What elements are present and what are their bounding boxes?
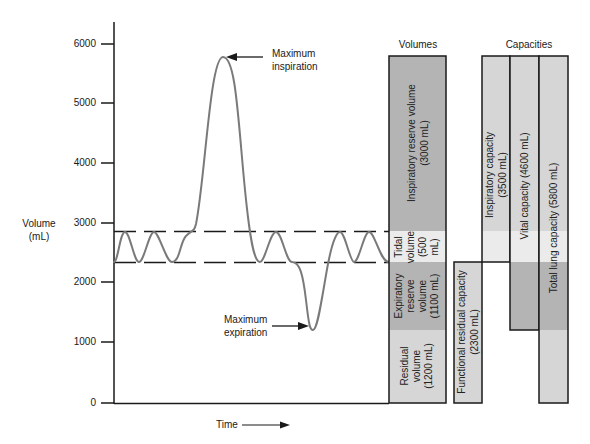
capacities-column: Functional residual capacity (2300 mL) I… <box>454 56 568 403</box>
y-axis: 6000 5000 4000 3000 2000 1000 0 Volume (… <box>22 22 114 408</box>
lung-volumes-diagram: 6000 5000 4000 3000 2000 1000 0 Volume (… <box>0 0 590 444</box>
max-inspiration-label-1: Maximum <box>272 48 315 59</box>
x-axis-label: Time <box>216 419 238 430</box>
y-tick-2000: 2000 <box>74 276 97 287</box>
frc-value: (2300 mL) <box>469 309 480 355</box>
tv-label-1: Tidal <box>393 236 404 257</box>
y-tick-4000: 4000 <box>74 157 97 168</box>
tlc-label: Total lung capacity (5800 mL) <box>548 163 559 294</box>
spirogram-trace <box>114 57 389 330</box>
y-axis-unit: (mL) <box>29 231 50 242</box>
volumes-header: Volumes <box>399 39 437 50</box>
irv-bar <box>389 56 446 231</box>
time-arrow-icon <box>280 422 290 429</box>
y-tick-1000: 1000 <box>74 336 97 347</box>
rv-label-1: Residual <box>399 347 410 386</box>
erv-label-3: volume <box>417 279 428 312</box>
max-expiration-label-2: expiration <box>224 327 267 338</box>
max-inspiration-label-2: inspiration <box>272 61 318 72</box>
ic-label: Inspiratory capacity <box>484 132 495 218</box>
max-expiration-label-1: Maximum <box>224 314 267 325</box>
tv-value-2: mL) <box>429 238 440 255</box>
max-inspiration-annotation: Maximum inspiration <box>226 48 318 72</box>
x-axis: Time <box>114 404 389 431</box>
rv-label-2: volume <box>411 349 422 382</box>
irv-label: Inspiratory reserve volume <box>406 84 417 202</box>
rv-value: (1200 mL) <box>423 343 434 389</box>
volumes-column: Inspiratory reserve volume (3000 mL) Tid… <box>389 56 446 403</box>
y-tick-0: 0 <box>90 397 96 408</box>
capacities-header: Capacities <box>506 39 553 50</box>
y-tick-5000: 5000 <box>74 97 97 108</box>
ic-value: (3500 mL) <box>497 152 508 198</box>
tlc-bar-rv <box>539 330 568 403</box>
erv-label-1: Expiratory <box>393 273 404 318</box>
tv-label-2: volume <box>405 230 416 263</box>
y-tick-3000: 3000 <box>74 217 97 228</box>
tv-value-1: (500 <box>417 237 428 257</box>
ic-bar-tidal <box>482 231 510 262</box>
arrow-right-icon <box>298 322 309 330</box>
y-axis-label: Volume <box>22 218 56 229</box>
y-tick-6000: 6000 <box>74 38 97 49</box>
erv-label-2: reserve <box>405 279 416 313</box>
max-expiration-annotation: Maximum expiration <box>224 314 309 338</box>
vc-bar-erv <box>510 262 539 330</box>
vc-label: Vital capacity (4600 mL) <box>519 132 530 239</box>
erv-value: (1100 mL) <box>429 274 440 319</box>
frc-label: Functional residual capacity <box>456 270 467 393</box>
irv-value: (3000 mL) <box>419 120 430 166</box>
